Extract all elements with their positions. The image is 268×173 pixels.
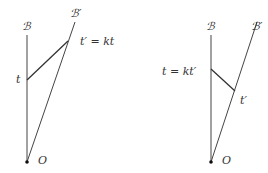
left-diagram: ℬ ℬ′ t t′ = kt O <box>16 7 115 167</box>
label-b-right: ℬ <box>206 20 216 33</box>
label-tprime-left: t′ = kt <box>80 35 115 48</box>
label-bprime-right: ℬ′ <box>251 20 263 33</box>
label-t-left: t <box>16 73 21 86</box>
worldline-bprime-left <box>27 22 75 162</box>
origin-point-left <box>25 160 29 164</box>
label-origin-left: O <box>38 154 47 167</box>
label-origin-right: O <box>222 154 231 167</box>
label-b-left: ℬ <box>22 20 32 33</box>
right-diagram: ℬ ℬ′ t = kt′ t′ O <box>162 20 263 167</box>
label-t-right: t = kt′ <box>162 65 197 78</box>
k-calculus-diagrams: ℬ ℬ′ t t′ = kt O ℬ ℬ′ t = kt′ t′ O <box>0 0 268 173</box>
label-bprime-left: ℬ′ <box>70 7 82 20</box>
label-tprime-right: t′ <box>240 94 247 107</box>
light-signal-right <box>211 69 235 91</box>
origin-point-right <box>209 160 213 164</box>
worldline-bprime-right <box>211 22 257 162</box>
